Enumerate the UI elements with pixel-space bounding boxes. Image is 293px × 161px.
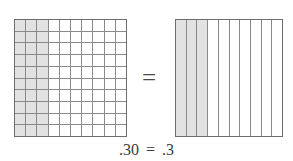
table-row	[15, 55, 126, 67]
grid-cell	[71, 55, 82, 66]
grid-cell	[93, 43, 104, 54]
caption-left-value: .30	[119, 140, 139, 159]
tenths-strip	[272, 20, 282, 136]
grid-cell-shaded	[26, 67, 37, 78]
grid-cell	[60, 32, 71, 43]
equation-caption: .30=.3	[0, 140, 293, 159]
grid-cell-shaded	[26, 102, 37, 113]
grid-cell	[71, 114, 82, 125]
grid-cell-shaded	[37, 67, 48, 78]
grid-cell-shaded	[37, 43, 48, 54]
grid-cell-shaded	[15, 102, 26, 113]
grid-cell-shaded	[26, 43, 37, 54]
grid-cell	[93, 102, 104, 113]
tenths-strip	[240, 20, 251, 136]
grid-cell	[82, 125, 93, 136]
grid-cell	[93, 125, 104, 136]
grid-cell	[105, 67, 116, 78]
grid-cell-shaded	[37, 102, 48, 113]
grid-cell	[116, 67, 126, 78]
grid-cell	[105, 114, 116, 125]
grid-cell-shaded	[15, 125, 26, 136]
grid-cell	[71, 90, 82, 101]
table-row	[15, 90, 126, 102]
grid-cell	[93, 90, 104, 101]
grid-cell	[82, 102, 93, 113]
grid-cell	[105, 20, 116, 31]
grid-cell	[71, 43, 82, 54]
grid-cell-shaded	[15, 79, 26, 90]
grid-cell	[82, 20, 93, 31]
grid-cell	[105, 90, 116, 101]
table-row	[15, 67, 126, 79]
tenths-strip	[262, 20, 273, 136]
grid-cell-shaded	[26, 114, 37, 125]
grid-cell	[116, 114, 126, 125]
tenths-strip	[251, 20, 262, 136]
grid-cell	[105, 32, 116, 43]
grid-cell	[49, 125, 60, 136]
table-row	[15, 32, 126, 44]
grid-cell	[105, 79, 116, 90]
grid-cell	[71, 32, 82, 43]
grid-cell	[105, 55, 116, 66]
tenths-strip-shaded	[197, 20, 208, 136]
grid-cell	[82, 43, 93, 54]
grid-cell-shaded	[15, 55, 26, 66]
grid-cell-shaded	[37, 20, 48, 31]
grid-cell-shaded	[26, 90, 37, 101]
grid-cell-shaded	[37, 79, 48, 90]
grid-cell-shaded	[26, 55, 37, 66]
grid-cell	[93, 114, 104, 125]
grid-cell-shaded	[26, 32, 37, 43]
table-row	[15, 43, 126, 55]
grid-cell-shaded	[26, 20, 37, 31]
grid-cell	[49, 79, 60, 90]
grid-cell	[82, 67, 93, 78]
grid-cell-shaded	[26, 79, 37, 90]
grid-cell-shaded	[15, 20, 26, 31]
table-row	[15, 20, 126, 32]
grid-cell	[71, 79, 82, 90]
grid-cell	[82, 90, 93, 101]
tenths-strip-shaded	[176, 20, 187, 136]
grid-cell	[49, 90, 60, 101]
grid-cell	[49, 32, 60, 43]
grid-cell	[116, 102, 126, 113]
grid-cell	[105, 125, 116, 136]
grid-cell	[116, 55, 126, 66]
grid-cell-shaded	[37, 114, 48, 125]
grid-cell-shaded	[37, 55, 48, 66]
grid-cell	[82, 32, 93, 43]
grid-cell	[116, 125, 126, 136]
grid-cell	[93, 67, 104, 78]
grid-cell	[49, 43, 60, 54]
grid-cell	[49, 55, 60, 66]
tenths-strip	[230, 20, 241, 136]
table-row	[15, 125, 126, 136]
grid-cell	[93, 20, 104, 31]
grid-cell-shaded	[15, 90, 26, 101]
grid-cell	[60, 125, 71, 136]
table-row	[15, 114, 126, 126]
grid-cell	[116, 20, 126, 31]
grid-cell	[49, 102, 60, 113]
hundredths-grid-rows	[15, 20, 126, 136]
grid-cell	[60, 102, 71, 113]
grid-cell	[60, 67, 71, 78]
grid-cell-shaded	[15, 114, 26, 125]
grid-cell	[82, 55, 93, 66]
grid-cell-shaded	[37, 125, 48, 136]
grid-cell	[93, 79, 104, 90]
grid-cell	[105, 102, 116, 113]
grid-cell	[71, 125, 82, 136]
grid-cell-shaded	[15, 43, 26, 54]
grid-cell	[105, 43, 116, 54]
grid-cell	[49, 67, 60, 78]
tenths-strip	[219, 20, 230, 136]
table-row	[15, 102, 126, 114]
grid-cell-shaded	[37, 90, 48, 101]
equals-sign-icon: =	[136, 64, 162, 92]
grid-cell-shaded	[37, 32, 48, 43]
grid-cell	[116, 43, 126, 54]
